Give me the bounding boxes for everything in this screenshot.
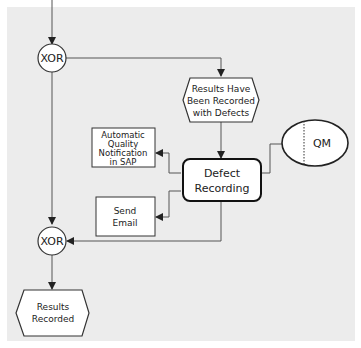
line-function-to-qm — [261, 144, 282, 173]
event-recorded-line-1: Results — [37, 302, 70, 312]
arrow-function-to-email — [156, 191, 181, 217]
event-results-recorded[interactable]: Results Recorded — [16, 290, 89, 336]
output-send-email[interactable]: Send Email — [96, 197, 155, 236]
email-line-1: Send — [114, 206, 137, 216]
org-unit-qm[interactable]: QM — [282, 120, 348, 166]
event-recorded-line-2: Recorded — [32, 314, 74, 324]
event-defects-line-1: Results Have — [192, 84, 251, 94]
function-line-2: Recording — [194, 182, 249, 195]
epc-diagram: XOR Results Have Been Recorded with Defe… — [0, 0, 361, 348]
xor-connector-bottom[interactable]: XOR — [38, 227, 66, 255]
qm-label: QM — [313, 137, 331, 150]
output-automatic-quality-notification[interactable]: Automatic Quality Notification in SAP — [92, 128, 155, 167]
connectors — [52, 0, 282, 289]
arrow-xor-to-event — [65, 58, 221, 76]
xor-top-label: XOR — [40, 52, 63, 65]
xor-bottom-label: XOR — [40, 235, 63, 248]
notification-line-4: in SAP — [110, 157, 137, 167]
event-results-recorded-with-defects[interactable]: Results Have Been Recorded with Defects — [183, 78, 259, 122]
email-line-2: Email — [113, 218, 138, 228]
function-line-1: Defect — [204, 167, 241, 180]
function-defect-recording[interactable]: Defect Recording — [183, 159, 261, 201]
event-defects-line-2: Been Recorded — [187, 96, 255, 106]
xor-connector-top[interactable]: XOR — [38, 44, 66, 72]
event-defects-line-3: with Defects — [193, 108, 250, 118]
arrow-function-to-notification — [156, 153, 181, 173]
